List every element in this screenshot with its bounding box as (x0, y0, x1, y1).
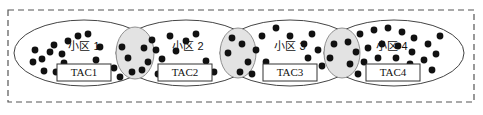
ue-dot (315, 47, 322, 54)
ue-dot (309, 31, 316, 38)
tac-label-cell-4: TAC4 (380, 66, 407, 78)
tac-label-cell-3: TAC3 (277, 66, 304, 78)
ue-dot (399, 29, 406, 36)
cell-label-cell-3: 小区 3 (274, 40, 305, 52)
ue-dot (305, 55, 312, 62)
ue-dot (437, 33, 444, 40)
ue-dot (30, 59, 37, 66)
ue-dot (167, 33, 174, 40)
cell-label-cell-1: 小区 1 (68, 40, 99, 52)
ue-dot (429, 67, 436, 74)
diagram-canvas: 小区 1TAC1小区 2TAC2小区 3TAC3小区 4TAC4 (0, 0, 483, 115)
ue-dot (237, 69, 244, 76)
ue-dot (365, 45, 372, 52)
ue-dot (345, 39, 352, 46)
ue-dot (411, 35, 418, 42)
ue-dot (59, 51, 66, 58)
ue-dot (327, 55, 334, 62)
ue-dot (125, 55, 132, 62)
ue-dot (93, 57, 100, 64)
ue-dot (39, 56, 46, 63)
ue-dot (249, 71, 256, 78)
ue-dot (225, 50, 232, 57)
tac-label-cell-1: TAC1 (71, 66, 98, 78)
tac-label-cell-2: TAC2 (172, 66, 199, 78)
ue-dot (425, 41, 432, 48)
ue-dot (357, 31, 364, 38)
ue-dot (141, 45, 148, 52)
ue-dot (129, 69, 136, 76)
ue-dot (375, 55, 382, 62)
ue-dot (245, 59, 252, 66)
ue-dot (119, 44, 126, 51)
ue-dot (32, 47, 39, 54)
ue-dot (85, 31, 92, 38)
ue-dot (75, 33, 82, 40)
ue-dot (139, 67, 146, 74)
ue-dot (347, 61, 354, 68)
cell-overlap-diagram: 小区 1TAC1小区 2TAC2小区 3TAC3小区 4TAC4 (0, 0, 483, 115)
ue-dot (287, 33, 294, 40)
ue-dot (371, 27, 378, 34)
ue-dot (239, 41, 246, 48)
ue-dot (355, 71, 362, 78)
cell-label-cell-4: 小区 4 (376, 40, 407, 52)
ue-dot (253, 47, 260, 54)
ue-dot (111, 65, 118, 72)
ue-dot (353, 49, 360, 56)
ue-dot (41, 68, 48, 75)
ue-dot (153, 47, 160, 54)
ue-dot (203, 58, 210, 65)
ue-dot (159, 56, 166, 63)
ue-dot (149, 37, 156, 44)
ue-dot (273, 25, 280, 32)
ue-dot (117, 74, 124, 81)
cell-label-cell-2: 小区 2 (172, 40, 203, 52)
ue-dot (385, 25, 392, 32)
ue-dot (409, 49, 416, 56)
ue-dot (229, 35, 236, 42)
ue-dot (433, 51, 440, 58)
ue-dot (393, 55, 400, 62)
ue-dot (319, 63, 326, 70)
ue-dot (421, 57, 428, 64)
ue-dot (145, 59, 152, 66)
ue-dot (47, 49, 54, 56)
ue-dot (51, 42, 58, 49)
ue-dot (193, 31, 200, 38)
ue-dot (259, 33, 266, 40)
ue-dot (331, 41, 338, 48)
